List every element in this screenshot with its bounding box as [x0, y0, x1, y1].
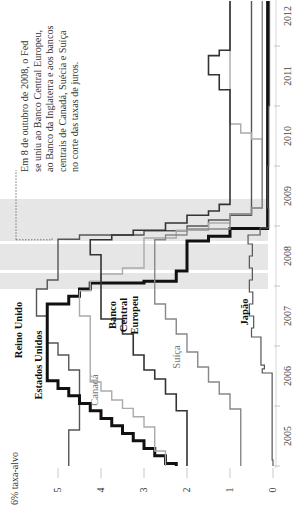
year-label: 2010: [282, 126, 293, 146]
shading-stripe: [0, 270, 268, 273]
series-label: Suíça: [171, 345, 182, 369]
annotation-text-line: se uniu ao Banco Central Europeu,: [32, 30, 43, 172]
series-label: Banco: [107, 301, 118, 329]
rate-tick-label: 5: [52, 488, 63, 493]
rate-tick-label: 4: [95, 488, 106, 493]
rate-tick-label: 3: [138, 488, 149, 493]
year-label: 2009: [282, 186, 293, 206]
rate-tick-label: 2: [181, 488, 192, 493]
rate-tick-label: 0: [267, 488, 278, 493]
shading-stripe: [0, 241, 268, 244]
series-label: Canadá: [89, 374, 100, 406]
series-label: Japão: [239, 299, 250, 326]
year-label: 2006: [282, 366, 293, 386]
interest-rate-chart: Em 8 de outubro de 2008, o Fedse uniu ao…: [0, 0, 296, 509]
year-label: 2005: [282, 426, 293, 446]
series-label: Europeu: [129, 295, 140, 334]
recession-shading: [0, 199, 268, 289]
series-label: Central: [118, 298, 129, 332]
year-label: 2011: [282, 66, 293, 86]
year-label: 2008: [282, 246, 293, 266]
rate-axis-title: 6% taxa-alvo: [9, 452, 20, 505]
annotation-text-line: Em 8 de outubro de 2008, o Fed: [19, 41, 30, 172]
series-label: Reino Unido: [13, 302, 24, 358]
rate-gridlines: [58, 468, 273, 478]
year-label: 2007: [282, 306, 293, 326]
series-label: Estados Unidos: [33, 330, 44, 399]
rate-tick-label: 1: [224, 488, 235, 493]
year-label: 2012: [282, 6, 293, 26]
annotation-text-line: ao Banco da Inglaterra e aos bancos: [44, 25, 55, 172]
annotation-text-line: no corte das taxas de juros.: [69, 62, 80, 172]
annotation-text-line: centrais de Canadá, Suécia e Suíça: [57, 30, 68, 172]
